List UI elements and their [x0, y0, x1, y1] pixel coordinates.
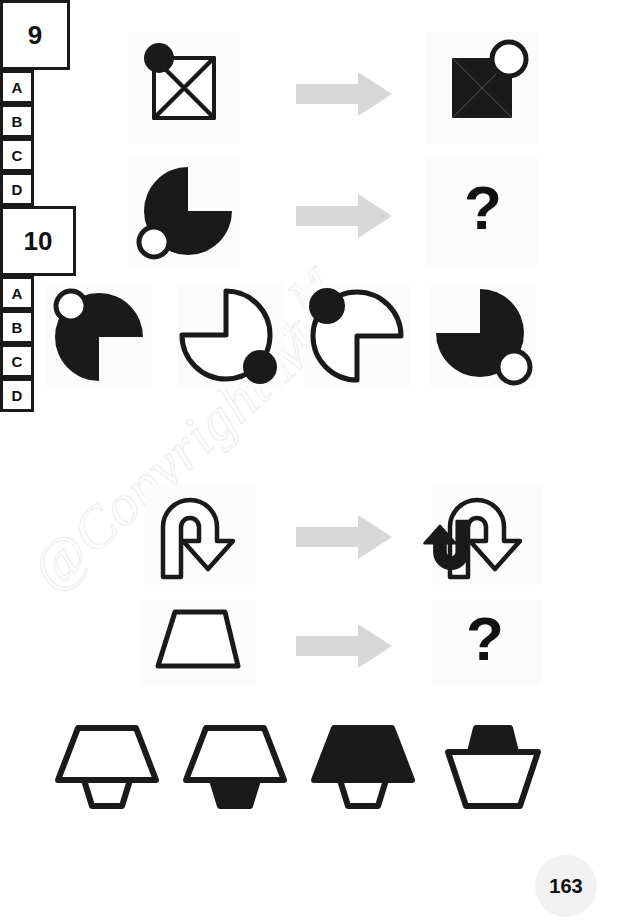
puzzle-9-question-source-figure: [128, 155, 240, 267]
puzzle-10-option-b-letter: B: [12, 319, 23, 336]
puzzle-10-option-c-letter-box[interactable]: C: [0, 344, 34, 378]
puzzle-9-option-b-figure[interactable]: [178, 283, 284, 389]
puzzle-10-example-source-figure: [145, 485, 255, 585]
page-number-badge: 163: [535, 855, 597, 917]
puzzle-9-option-c-letter-box[interactable]: C: [0, 138, 34, 172]
puzzle-10-option-c-letter: C: [12, 353, 23, 370]
puzzle-9-option-b-letter-box[interactable]: B: [0, 104, 34, 138]
puzzle-10-option-a-figure[interactable]: [52, 722, 162, 812]
puzzle-10-number-box: 10: [0, 206, 76, 276]
puzzle-10-question-arrow: [296, 622, 392, 670]
puzzle-9-question-mark: ?: [464, 177, 502, 239]
puzzle-10-option-a-letter-box[interactable]: A: [0, 276, 34, 310]
puzzle-9-option-c-figure[interactable]: [304, 283, 410, 389]
puzzle-9-option-d-letter-box[interactable]: D: [0, 172, 34, 206]
puzzle-10-option-d-letter: D: [12, 387, 23, 404]
puzzle-9: 9: [0, 0, 630, 206]
puzzle-9-option-d-figure[interactable]: [430, 283, 536, 389]
puzzle-10-question-mark: ?: [466, 608, 504, 670]
puzzle-10-example-result-figure: [432, 485, 542, 585]
puzzle-9-example-result-figure: [426, 32, 538, 144]
puzzle-10-option-a-letter: A: [12, 285, 23, 302]
puzzle-9-option-a-figure[interactable]: [46, 283, 152, 389]
puzzle-9-question-arrow: [296, 192, 392, 240]
puzzle-9-option-b-letter: B: [12, 113, 23, 130]
page-number: 163: [549, 875, 582, 898]
puzzle-9-example-source-figure: [128, 32, 240, 144]
puzzle-9-option-d-letter: D: [12, 181, 23, 198]
puzzle-9-option-c-letter: C: [12, 147, 23, 164]
puzzle-9-example-arrow: [296, 70, 392, 118]
puzzle-10-example-arrow: [296, 513, 392, 561]
puzzle-9-number-box: 9: [0, 0, 70, 70]
puzzle-9-option-a-letter-box[interactable]: A: [0, 70, 34, 104]
puzzle-10-option-b-letter-box[interactable]: B: [0, 310, 34, 344]
puzzle-9-number: 9: [28, 20, 42, 51]
puzzle-10-question-source-figure: [140, 600, 256, 686]
worksheet-page: @Copyright M ight M 9: [0, 0, 630, 923]
puzzle-10-option-b-figure[interactable]: [180, 722, 290, 812]
puzzle-9-option-a-letter: A: [12, 79, 23, 96]
puzzle-10-option-d-letter-box[interactable]: D: [0, 378, 34, 412]
puzzle-10-option-c-figure[interactable]: [308, 722, 418, 812]
puzzle-10-number: 10: [24, 226, 53, 257]
puzzle-10-option-d-figure[interactable]: [438, 722, 548, 812]
